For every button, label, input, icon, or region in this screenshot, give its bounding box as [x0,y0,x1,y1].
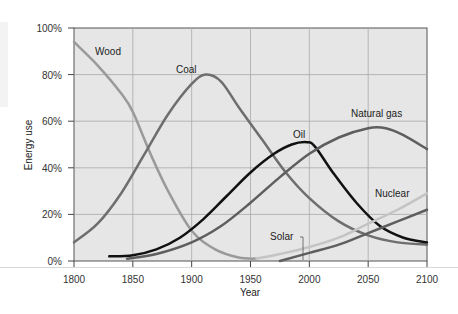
label-wood: Wood [95,46,121,57]
y-tick-label: 80% [42,70,62,81]
label-oil: Oil [293,129,305,140]
x-tick-label: 2100 [416,274,439,285]
label-natural-gas: Natural gas [351,108,402,119]
y-tick-label: 100% [36,23,62,34]
y-tick-label: 20% [42,209,62,220]
y-tick-label: 0% [48,256,63,267]
x-tick-label: 1900 [181,274,204,285]
x-tick-label: 1850 [122,274,145,285]
x-tick-label: 2000 [298,274,321,285]
x-axis: 1800185019001950200020502100 [63,261,439,285]
label-nuclear: Nuclear [375,188,410,199]
x-tick-label: 1800 [63,274,86,285]
x-axis-title: Year [240,287,261,298]
y-tick-label: 60% [42,116,62,127]
energy-use-chart: 0%20%40%60%80%100% 180018501900195020002… [0,0,458,314]
y-tick-label: 40% [42,163,62,174]
label-solar: Solar [270,231,294,242]
y-axis: 0%20%40%60%80%100% [36,23,74,267]
y-axis-title: Energy use [23,119,34,170]
label-coal: Coal [176,64,197,75]
x-tick-label: 1950 [239,274,262,285]
x-tick-label: 2050 [357,274,380,285]
